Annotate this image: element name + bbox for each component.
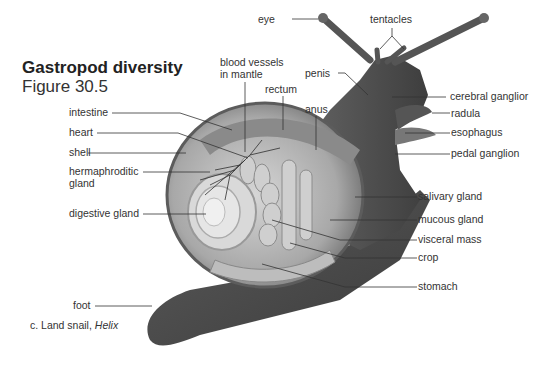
label-penis: penis [305, 68, 330, 79]
label-digestive-gland: digestive gland [69, 208, 139, 219]
label-cerebral-ganglion: cerebral ganglior [450, 91, 528, 102]
figure-number: Figure 30.5 [22, 77, 108, 96]
label-blood-vessels-line1: blood vessels [220, 57, 284, 68]
label-intestine: intestine [69, 107, 108, 118]
label-pedal-ganglion: pedal ganglion [451, 148, 519, 159]
label-visceral-mass: visceral mass [418, 234, 482, 245]
shell-shape [167, 103, 363, 287]
label-stomach: stomach [418, 281, 458, 292]
label-radula: radula [451, 108, 480, 119]
label-hermaphroditic-line1: hermaphroditic [69, 166, 138, 177]
caption-genus: Helix [95, 319, 118, 331]
label-foot: foot [73, 300, 91, 311]
label-eye: eye [258, 14, 275, 25]
label-esophagus: esophagus [451, 127, 502, 138]
label-shell: shell [69, 147, 91, 158]
label-rectum: rectum [265, 84, 297, 95]
label-blood-vessels-line2: in mantle [220, 69, 263, 80]
label-mucous-gland: mucous gland [418, 214, 483, 225]
label-salivary-gland: salivary gland [418, 191, 482, 202]
label-hermaphroditic-line2: gland [69, 178, 95, 189]
label-crop: crop [418, 252, 438, 263]
figure-caption: c. Land snail, Helix [30, 319, 118, 331]
figure-title: Gastropod diversity [22, 58, 183, 77]
label-heart: heart [69, 127, 93, 138]
caption-prefix: c. Land snail, [30, 319, 95, 331]
label-anus: anus [305, 104, 328, 115]
label-tentacles: tentacles [370, 14, 412, 25]
